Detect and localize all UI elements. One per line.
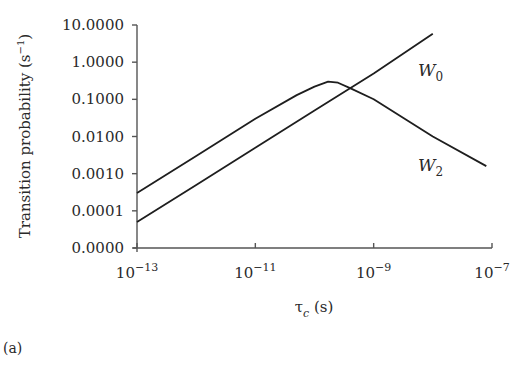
x-tick-label: 10−13 <box>116 261 158 282</box>
y-tick-label: 0.0100 <box>72 128 125 146</box>
x-tick-label: 10−11 <box>234 261 276 282</box>
x-axis-title: τc (s) <box>295 298 334 320</box>
series-label-w0: W0 <box>418 60 443 84</box>
y-axis-title: Transition probability (s−1) <box>15 34 34 238</box>
series-line-w2 <box>137 82 486 194</box>
panel-label: (a) <box>3 340 22 356</box>
y-tick-label: 1.0000 <box>72 53 125 71</box>
transition-probability-chart: Transition probability (s−1) 10.00001.00… <box>0 0 527 367</box>
series-label-w2: W2 <box>418 155 443 179</box>
x-tick-label: 10−7 <box>474 261 509 282</box>
y-tick-label: 0.0001 <box>72 202 125 220</box>
y-tick-label: 0.0010 <box>72 165 125 183</box>
y-tick-label: 0.1000 <box>72 90 125 108</box>
series-line-w0 <box>137 34 433 222</box>
x-tick-label: 10−9 <box>356 261 391 282</box>
x-ticks: 10−1310−1110−910−7 <box>116 243 510 282</box>
y-tick-label: 0.0000 <box>72 239 125 257</box>
y-ticks: 10.00001.00000.10000.01000.00100.00010.0… <box>62 16 137 257</box>
y-tick-label: 10.0000 <box>62 16 124 34</box>
